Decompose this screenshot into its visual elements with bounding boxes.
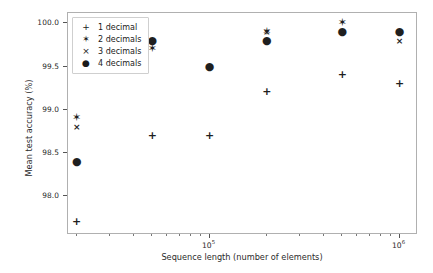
legend-label: 2 decimals <box>94 35 141 44</box>
legend-marker-icon: ✶ <box>78 35 94 44</box>
x-tick-mark <box>399 234 400 238</box>
x-tick-minor <box>179 234 180 236</box>
x-tick-minor <box>380 234 381 236</box>
legend-item[interactable]: ✶2 decimals <box>78 33 141 45</box>
legend-marker-icon: ● <box>78 59 94 68</box>
x-tick-label: 105 <box>202 239 215 250</box>
x-tick-minor <box>323 234 324 236</box>
x-tick-minor <box>166 234 167 236</box>
x-tick-minor <box>200 234 201 236</box>
x-tick-minor <box>369 234 370 236</box>
y-tick-label: 98.5 <box>42 147 59 156</box>
x-tick-minor <box>299 234 300 236</box>
y-tick-label: 98.0 <box>42 191 59 200</box>
legend-label: 3 decimals <box>94 47 141 56</box>
legend-label: 4 decimals <box>94 59 141 68</box>
legend-marker-icon: + <box>78 23 94 32</box>
y-axis-label: Mean test accuracy (%) <box>24 38 34 218</box>
x-tick-minor <box>76 234 77 236</box>
legend-item[interactable]: ×3 decimals <box>78 45 141 57</box>
legend-label: 1 decimal <box>94 23 137 32</box>
x-tick-minor <box>266 234 267 236</box>
x-tick-minor <box>109 234 110 236</box>
x-tick-minor <box>133 234 134 236</box>
x-tick-minor <box>341 234 342 236</box>
x-axis-label: Sequence length (number of elements) <box>67 252 417 262</box>
x-tick-minor <box>390 234 391 236</box>
legend-item[interactable]: ●4 decimals <box>78 57 141 69</box>
legend-item[interactable]: +1 decimal <box>78 21 141 33</box>
y-tick-label: 99.0 <box>42 104 59 113</box>
y-tick-label: 100.0 <box>37 18 59 27</box>
x-tick-mark <box>209 234 210 238</box>
x-tick-minor <box>356 234 357 236</box>
y-tick-label: 99.5 <box>42 61 59 70</box>
x-tick-label: 106 <box>392 239 405 250</box>
figure-canvas: Mean test accuracy (%) 98.098.599.099.51… <box>0 0 433 273</box>
x-tick-minor <box>190 234 191 236</box>
x-tick-minor <box>151 234 152 236</box>
legend-marker-icon: × <box>78 47 94 56</box>
legend: +1 decimal✶2 decimals×3 decimals●4 decim… <box>72 17 149 74</box>
